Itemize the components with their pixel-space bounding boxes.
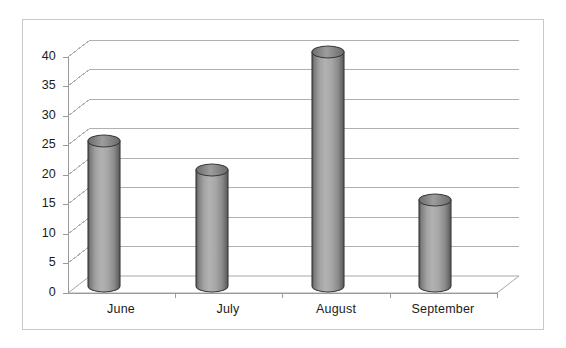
y-tick-label-10: 10	[22, 227, 56, 240]
x-tick-label-september: September	[412, 303, 475, 316]
y-tick-label-20: 20	[22, 168, 56, 181]
x-tick-label-july: July	[216, 303, 239, 316]
y-tick-label-0: 0	[22, 286, 56, 299]
chart-bar-july[interactable]	[196, 164, 228, 292]
chart-canvas	[0, 0, 566, 348]
x-tick-label-august: August	[316, 303, 356, 316]
y-tick-label-30: 30	[22, 109, 56, 122]
y-tick-label-15: 15	[22, 197, 56, 210]
chart-bar-august[interactable]	[312, 46, 344, 292]
y-tick-label-40: 40	[22, 50, 56, 63]
chart-y-axis	[63, 57, 68, 293]
y-tick-label-35: 35	[22, 79, 56, 92]
chart-bar-september[interactable]	[419, 194, 451, 292]
chart-bar-june[interactable]	[88, 135, 120, 292]
chart-x-axis	[68, 293, 497, 298]
x-tick-label-june: June	[107, 303, 135, 316]
y-tick-label-5: 5	[22, 256, 56, 269]
y-tick-label-25: 25	[22, 138, 56, 151]
chart-figure: 40 35 30 25 20 15 10 5 0 June July Augus…	[0, 0, 566, 348]
